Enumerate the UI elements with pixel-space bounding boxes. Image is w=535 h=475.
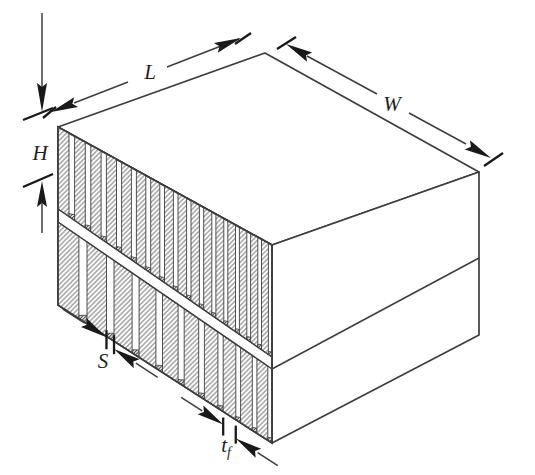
fin	[251, 233, 258, 347]
fin-thickness-subscript: f	[227, 445, 233, 460]
fin	[241, 348, 253, 431]
fin	[122, 162, 132, 260]
dimension-arrowhead	[286, 44, 312, 62]
fin	[163, 294, 179, 383]
fin	[223, 336, 236, 420]
fin	[58, 222, 79, 319]
fin	[239, 227, 246, 340]
fin	[136, 170, 145, 270]
fin	[106, 154, 116, 250]
fin	[191, 200, 199, 306]
fin	[228, 221, 236, 332]
label-fin-spacing: S	[98, 349, 109, 373]
fin	[204, 323, 218, 409]
heatsink-diagram: L W H S tf	[0, 0, 535, 475]
dimension-arrowhead	[465, 140, 491, 158]
fin	[165, 186, 174, 289]
fin	[151, 178, 160, 279]
fin	[139, 278, 156, 369]
fin	[262, 239, 269, 354]
dimension-arrowhead	[37, 83, 47, 112]
fin	[216, 214, 224, 324]
fin	[184, 309, 199, 396]
solid-faces	[58, 53, 479, 443]
label-width: W	[383, 92, 403, 116]
dimension-height	[23, 13, 53, 233]
dimension-arrowhead	[236, 439, 261, 458]
label-fin-thickness: tf	[221, 433, 233, 460]
dimension-line	[181, 397, 202, 411]
fin	[114, 261, 132, 353]
label-length: L	[143, 60, 156, 84]
fin	[75, 136, 86, 228]
fin	[204, 207, 212, 315]
dimension-arrowhead	[51, 97, 78, 112]
dimension-arrowhead	[214, 38, 241, 53]
label-height: H	[31, 141, 49, 165]
fin	[257, 359, 268, 441]
fin	[58, 127, 69, 217]
fin	[91, 145, 101, 239]
fin	[178, 193, 187, 298]
dimension-line	[74, 82, 128, 103]
dimension-tick	[23, 174, 53, 187]
dimension-line	[258, 453, 278, 466]
figure-container: L W H S tf	[0, 0, 535, 475]
dimension-tick	[235, 33, 251, 44]
